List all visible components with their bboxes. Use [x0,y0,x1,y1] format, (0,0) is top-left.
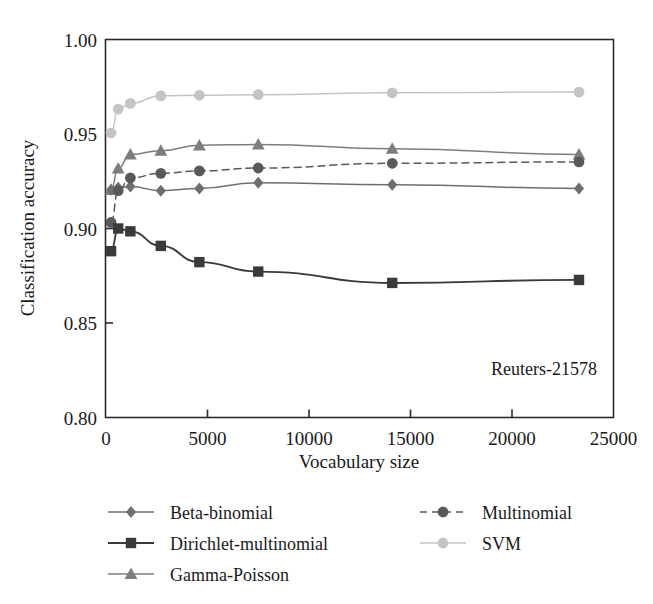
data-point-marker [125,226,135,236]
y-tick-label: 0.90 [64,219,97,240]
legend-label: Gamma-Poisson [170,565,289,585]
data-point-marker [106,246,116,256]
data-point-marker [253,163,264,174]
series-gamma-poisson [105,138,586,195]
square-icon [126,538,136,548]
data-point-marker [113,223,123,233]
x-tick-label: 15000 [387,428,435,449]
series-line [111,162,579,222]
data-point-marker [194,257,204,267]
data-point-marker [194,182,204,194]
legend-item-beta-binomial[interactable]: Beta-binomial [108,503,273,523]
data-point-marker [113,104,124,115]
data-point-marker [156,241,166,251]
axis-tickmarks [106,134,512,418]
y-axis-title: Classification accuracy [17,139,38,316]
chart-legend: Beta-binomialDirichlet-multinomialGamma-… [0,486,653,604]
data-point-marker [155,90,166,101]
data-point-marker [574,157,585,168]
series-svm [106,87,585,139]
dataset-annotation: Reuters-21578 [491,359,597,379]
data-point-marker [156,185,166,197]
data-point-marker [387,158,398,169]
legend-item-dirichlet-multinomial[interactable]: Dirichlet-multinomial [108,534,328,554]
chart-figure: 0.800.850.900.951.00 0500010000150002000… [0,0,653,604]
series-layer [105,87,586,288]
x-axis-title: Vocabulary size [299,451,419,472]
legend-item-multinomial[interactable]: Multinomial [420,503,572,523]
data-point-marker [113,185,124,196]
circle-icon [438,538,449,549]
plot-svg: 0.800.850.900.951.00 0500010000150002000… [0,0,653,490]
data-point-marker [387,87,398,98]
y-tick-label: 1.00 [64,30,97,51]
series-multinomial [106,157,585,228]
series-line [111,229,579,283]
y-axis-tick-labels: 0.800.850.900.951.00 [64,30,97,429]
data-point-marker [125,172,136,183]
data-point-marker [253,266,263,276]
data-point-marker [574,87,585,98]
y-tick-label: 0.85 [64,313,97,334]
diamond-icon [126,506,136,518]
series-line [111,92,579,133]
data-point-marker [253,177,263,189]
legend-label: SVM [482,534,521,554]
data-point-marker [125,98,136,109]
legend-items: Beta-binomialDirichlet-multinomialGamma-… [108,503,572,585]
data-point-marker [253,89,264,100]
series-line [111,144,579,189]
legend-label: Multinomial [482,503,572,523]
x-tick-label: 25000 [590,428,638,449]
data-point-marker [155,168,166,179]
legend-item-svm[interactable]: SVM [420,534,521,554]
x-tick-label: 5000 [189,428,227,449]
data-point-marker [194,165,205,176]
x-axis-tick-labels: 0500010000150002000025000 [101,428,637,449]
y-tick-label: 0.80 [64,408,97,429]
x-tick-label: 0 [101,428,111,449]
circle-icon [438,507,449,518]
data-point-marker [387,278,397,288]
series-beta-binomial [106,177,584,197]
data-point-marker [574,182,584,194]
data-point-marker [106,128,117,139]
x-tick-label: 20000 [488,428,536,449]
series-dirichlet-multinomial [106,223,584,288]
legend-item-gamma-poisson[interactable]: Gamma-Poisson [108,565,289,585]
data-point-marker [387,179,397,191]
x-tick-label: 10000 [285,428,333,449]
data-point-marker [194,90,205,101]
data-point-marker [574,275,584,285]
series-line [111,183,579,191]
y-tick-label: 0.95 [64,124,97,145]
legend-label: Dirichlet-multinomial [170,534,328,554]
legend-label: Beta-binomial [170,503,273,523]
